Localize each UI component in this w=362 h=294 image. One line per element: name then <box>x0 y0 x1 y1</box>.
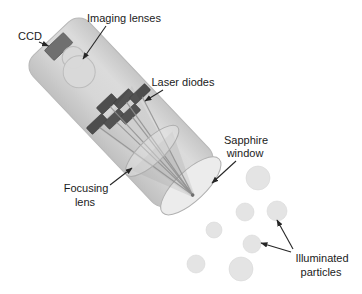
diagram-canvas: CCD Imaging lenses Laser diodes Sapphire… <box>0 0 362 294</box>
illuminated-particle <box>206 222 222 238</box>
sapphire-window-label-line1: Sapphire <box>224 134 268 146</box>
focusing-lens-label-line1: Focusing <box>64 182 109 194</box>
probe-diagram: CCD Imaging lenses Laser diodes Sapphire… <box>0 0 362 294</box>
illuminated-particles-arrow-2 <box>261 243 291 252</box>
illuminated-particles-arrow-1 <box>277 220 293 249</box>
laser-diodes-label: Laser diodes <box>152 76 215 88</box>
ccd-label: CCD <box>18 30 42 42</box>
focusing-lens-label-line2: lens <box>75 196 96 208</box>
illuminated-particle <box>243 235 261 253</box>
probe-cylinder-group <box>23 12 230 224</box>
illuminated-particle <box>246 166 270 190</box>
illuminated-particles-label-line2: particles <box>301 266 342 278</box>
illuminated-particles-label-line1: Illuminated <box>295 252 348 264</box>
sapphire-window-label-line2: window <box>226 147 264 159</box>
illuminated-particle <box>267 201 287 221</box>
imaging-lenses-label: Imaging lenses <box>87 12 161 24</box>
illuminated-particle <box>229 257 253 281</box>
illuminated-particle <box>187 255 205 273</box>
illuminated-particle <box>236 203 254 221</box>
